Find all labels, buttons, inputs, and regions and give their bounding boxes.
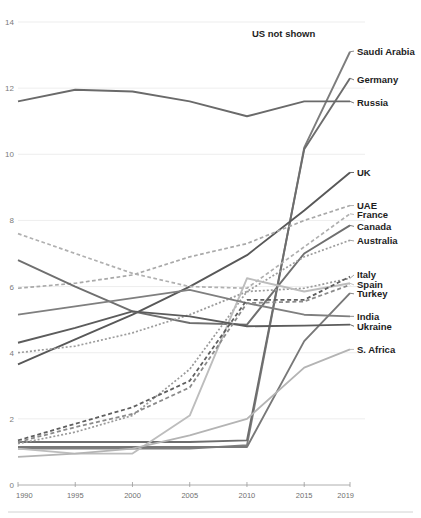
- y-tick-label: 4: [10, 349, 15, 358]
- series-line-uae: [18, 206, 350, 289]
- series-line-ukraine: [18, 311, 350, 342]
- leader-line-canada: [350, 225, 354, 226]
- series-line-india: [18, 290, 350, 316]
- y-tick-label: 14: [5, 18, 14, 27]
- y-tick-label: 0: [10, 481, 15, 490]
- gridlines-group: [18, 22, 365, 419]
- series-label-uk[interactable]: UK: [357, 167, 371, 178]
- annotation-us-not-shown: US not shown: [252, 28, 316, 39]
- line-chart-svg: 02468101214 1990199520002005201020152019…: [0, 0, 421, 518]
- annotations-group: US not shown: [252, 28, 316, 39]
- x-axis-labels-group: 1990199520002005201020152019: [16, 491, 354, 500]
- x-tick-label: 2010: [239, 491, 256, 500]
- series-line-germany: [18, 78, 350, 442]
- leader-line-saudi-arabia: [350, 51, 354, 52]
- series-label-germany[interactable]: Germany: [357, 74, 399, 85]
- leader-line-germany: [350, 78, 354, 80]
- y-tick-label: 10: [5, 150, 14, 159]
- y-tick-label: 2: [10, 415, 15, 424]
- series-line-uk: [18, 172, 350, 364]
- series-label-russia[interactable]: Russia: [357, 97, 389, 108]
- y-axis-labels-group: 02468101214: [5, 18, 14, 490]
- series-line-spain: [18, 278, 350, 453]
- series-label-saudi-arabia[interactable]: Saudi Arabia: [357, 46, 415, 57]
- series-label-australia[interactable]: Australia: [357, 235, 398, 246]
- x-tick-label: 1990: [16, 491, 33, 500]
- x-tick-label: 1995: [67, 491, 84, 500]
- chart-container: 02468101214 1990199520002005201020152019…: [0, 0, 421, 518]
- series-line-canada: [18, 225, 350, 324]
- x-axis-group: [18, 482, 350, 487]
- series-label-turkey[interactable]: Turkey: [357, 288, 388, 299]
- y-tick-label: 12: [5, 84, 14, 93]
- series-line-russia: [18, 90, 350, 116]
- leader-line-italy: [350, 275, 354, 278]
- series-lines-group: [18, 52, 350, 457]
- y-tick-label: 6: [10, 283, 15, 292]
- series-label-ukraine[interactable]: Ukraine: [357, 321, 392, 332]
- series-line-france: [18, 214, 350, 288]
- leader-line-spain: [350, 283, 354, 285]
- label-leader-lines-group: [350, 51, 354, 349]
- series-labels-group: Saudi ArabiaGermanyRussiaUKUAEFranceCana…: [357, 46, 415, 355]
- y-tick-label: 8: [10, 216, 15, 225]
- series-line-s-africa: [18, 349, 350, 456]
- leader-line-russia: [350, 101, 354, 103]
- x-tick-label: 2019: [337, 491, 354, 500]
- series-label-france[interactable]: France: [357, 209, 388, 220]
- leader-line-france: [350, 214, 354, 215]
- leader-line-ukraine: [350, 325, 354, 327]
- leader-line-australia: [350, 240, 354, 241]
- series-label-s-africa[interactable]: S. Africa: [357, 344, 396, 355]
- leader-line-turkey: [350, 293, 354, 294]
- series-label-canada[interactable]: Canada: [357, 221, 392, 232]
- x-tick-label: 2005: [181, 491, 198, 500]
- x-tick-label: 2015: [296, 491, 313, 500]
- x-tick-label: 2000: [124, 491, 141, 500]
